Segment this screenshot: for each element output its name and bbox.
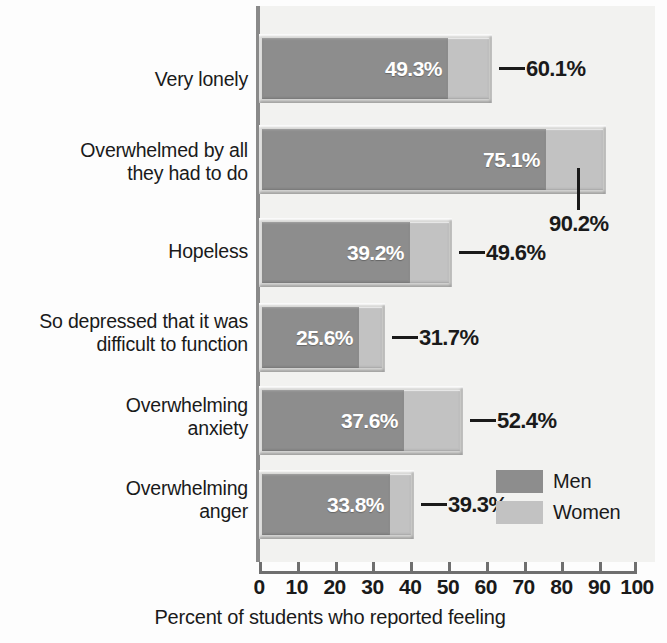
category-label-very-lonely: Very lonely (0, 68, 248, 91)
bar-segment-women: 39.2% (262, 222, 449, 283)
legend-swatch-men-icon (496, 470, 543, 493)
x-tick (448, 562, 451, 574)
category-label-line1: Hopeless (0, 240, 248, 263)
bar-frame: 39.2% (259, 218, 452, 287)
bar-chart: Very lonely Overwhelmed by all they had … (0, 0, 667, 643)
category-label-column: Very lonely Overwhelmed by all they had … (0, 0, 248, 562)
x-tick-label: 30 (361, 575, 383, 599)
category-label-line1: Very lonely (0, 68, 248, 91)
bar-frame: 37.6% (259, 386, 463, 455)
leader-line-icon (459, 251, 485, 254)
value-label-women: 60.1% (526, 56, 585, 82)
value-callout-women: 39.3% (421, 492, 507, 518)
value-label-women: 49.6% (486, 240, 545, 266)
x-tick-label: 100 (620, 575, 654, 599)
bar-row-very-lonely: 49.3% 60.1% (259, 34, 659, 103)
value-callout-women: 60.1% (499, 56, 585, 82)
value-label-men: 75.1% (483, 148, 540, 172)
legend-label-women: Women (553, 501, 621, 524)
category-label-overwhelming-anxiety: Overwhelming anxiety (0, 394, 248, 440)
x-tick-label: 40 (399, 575, 421, 599)
x-axis-title: Percent of students who reported feeling (0, 606, 660, 629)
x-tick (297, 562, 300, 574)
x-tick-label: 60 (475, 575, 497, 599)
category-label-line2: anger (0, 500, 248, 523)
x-tick (634, 562, 637, 574)
bar-segment-men: 75.1% (262, 129, 546, 190)
bar-segment-women: 33.8% (262, 474, 411, 535)
bar-segment-women: 49.3% (262, 38, 489, 99)
value-label-men: 25.6% (296, 326, 353, 350)
x-tick (259, 562, 262, 574)
leader-line-icon (421, 503, 447, 506)
x-tick-label: 20 (323, 575, 345, 599)
bar-segment-men: 25.6% (262, 307, 359, 368)
x-tick (335, 562, 338, 574)
legend: Men Women (496, 466, 621, 528)
x-tick (486, 562, 489, 574)
bar-row-overwhelmed: 75.1% 90.2% (259, 125, 659, 194)
category-label-line2: they had to do (0, 162, 248, 185)
bar-segment-men: 37.6% (262, 390, 404, 451)
leader-line-icon (577, 168, 580, 210)
bar-row-hopeless: 39.2% 49.6% (259, 218, 659, 287)
leader-line-icon (392, 336, 418, 339)
bar-segment-women: 37.6% (262, 390, 460, 451)
value-callout-women: 49.6% (459, 240, 545, 266)
value-label-men: 39.2% (347, 241, 404, 265)
category-label-overwhelming-anger: Overwhelming anger (0, 477, 248, 523)
x-tick-labels: 0 10 20 30 40 50 60 70 80 90 100 (259, 575, 637, 601)
x-tick (599, 562, 602, 574)
x-tick-label: 80 (550, 575, 572, 599)
x-tick-label: 50 (437, 575, 459, 599)
leader-line-icon (470, 419, 496, 422)
bar-row-so-depressed: 25.6% 31.7% (259, 303, 659, 372)
x-tick (561, 562, 564, 574)
value-label-men: 49.3% (385, 57, 442, 81)
value-callout-women: 52.4% (470, 408, 556, 434)
legend-item-women[interactable]: Women (496, 497, 621, 528)
leader-line-icon (499, 67, 525, 70)
bar-segment-men: 49.3% (262, 38, 448, 99)
x-tick-label: 0 (253, 575, 264, 599)
x-tick (372, 562, 375, 574)
bar-frame: 33.8% (259, 470, 414, 539)
category-label-line1: Overwhelmed by all (0, 139, 248, 162)
legend-item-men[interactable]: Men (496, 466, 621, 497)
category-label-line2: difficult to function (0, 333, 248, 356)
value-callout-women: 31.7% (392, 325, 478, 351)
value-label-men: 37.6% (341, 409, 398, 433)
x-tick-label: 10 (286, 575, 308, 599)
bar-frame: 25.6% (259, 303, 385, 372)
x-tick (524, 562, 527, 574)
category-label-line1: Overwhelming (0, 477, 248, 500)
category-label-line1: So depressed that it was (0, 310, 248, 333)
category-label-so-depressed: So depressed that it was difficult to fu… (0, 310, 248, 356)
category-label-overwhelmed: Overwhelmed by all they had to do (0, 139, 248, 185)
legend-label-men: Men (553, 470, 591, 493)
category-label-line2: anxiety (0, 417, 248, 440)
bar-segment-women: 25.6% (262, 307, 382, 368)
bar-segment-men: 33.8% (262, 474, 390, 535)
bar-row-overwhelming-anxiety: 37.6% 52.4% (259, 386, 659, 455)
x-tick-label: 70 (512, 575, 534, 599)
x-axis (259, 562, 637, 574)
bar-segment-men: 39.2% (262, 222, 410, 283)
value-label-men: 33.8% (327, 493, 384, 517)
category-label-hopeless: Hopeless (0, 240, 248, 263)
x-tick-label: 90 (588, 575, 610, 599)
bar-frame: 49.3% (259, 34, 492, 103)
legend-swatch-women-icon (496, 501, 543, 524)
x-tick (410, 562, 413, 574)
value-label-women: 31.7% (419, 325, 478, 351)
value-label-women: 52.4% (497, 408, 556, 434)
category-label-line1: Overwhelming (0, 394, 248, 417)
